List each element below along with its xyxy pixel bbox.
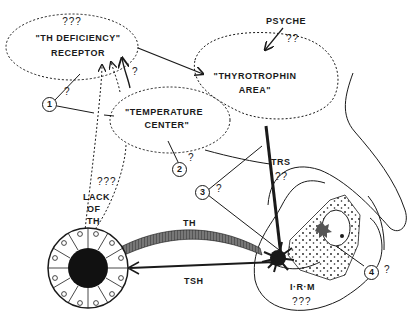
thyrotrophin-subtitle: AREA" <box>235 86 275 95</box>
thyroid-follicle <box>48 228 128 308</box>
receptor-title: "TH DEFICIENCY" <box>30 34 126 43</box>
receptor-question: ??? <box>60 17 84 27</box>
trs-question: ?? <box>275 172 288 182</box>
irm-label: I·R·M <box>290 283 315 292</box>
marker-2-question: ? <box>188 153 195 163</box>
lack-label-3: TH <box>87 217 100 226</box>
arrow-question: ? <box>132 67 139 77</box>
lack-label-1: LACK <box>83 193 110 202</box>
psyche-label: PSYCHE <box>266 17 306 26</box>
psyche-question: ?? <box>286 34 299 44</box>
marker-3-question: ? <box>216 184 223 194</box>
marker-1: 1 <box>42 97 57 112</box>
temperature-subtitle: CENTER" <box>142 121 192 130</box>
thyrotrophin-title: "THYROTROPHIN <box>210 72 300 81</box>
receptor-subtitle: RECEPTOR <box>50 49 106 58</box>
temperature-title: "TEMPERATURE <box>124 108 204 117</box>
marker-3: 3 <box>195 185 210 200</box>
marker-4-question: ? <box>384 265 391 275</box>
marker-4: 4 <box>364 265 379 280</box>
irm-question: ??? <box>292 297 312 307</box>
trs-label: TRS <box>271 158 291 167</box>
th-label: TH <box>183 219 196 228</box>
lack-question: ??? <box>97 177 117 187</box>
marker-1-question: ? <box>64 87 71 97</box>
lack-label-2: OF <box>87 205 101 214</box>
marker-2: 2 <box>172 162 187 177</box>
tsh-label: TSH <box>184 277 204 286</box>
thyroid-regulation-diagram: ??? "TH DEFICIENCY" RECEPTOR "THYROTROPH… <box>0 0 420 327</box>
